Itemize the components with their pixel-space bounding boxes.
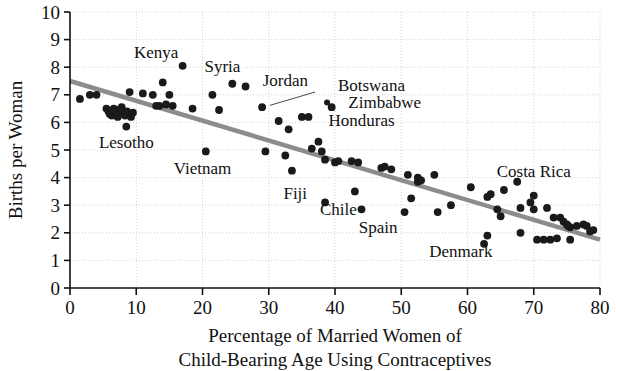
scatter-plot-svg: 01234567891001020304050607080Births per … bbox=[0, 0, 617, 371]
data-point bbox=[351, 188, 359, 196]
y-axis-tick-label: 2 bbox=[51, 222, 61, 243]
data-point bbox=[262, 147, 270, 155]
x-axis-title-line2: Child-Bearing Age Using Contraceptives bbox=[179, 349, 492, 370]
data-point bbox=[543, 204, 551, 212]
data-point bbox=[483, 232, 491, 240]
annotation-label: Spain bbox=[359, 218, 398, 237]
data-point bbox=[348, 157, 356, 165]
x-axis-tick-label: 40 bbox=[326, 297, 345, 318]
data-point bbox=[149, 91, 157, 99]
data-point bbox=[126, 88, 134, 96]
data-point bbox=[553, 234, 561, 242]
y-axis-tick-label: 8 bbox=[51, 57, 61, 78]
data-point bbox=[358, 205, 366, 213]
y-axis-tick-label: 6 bbox=[51, 112, 61, 133]
data-point bbox=[129, 109, 137, 117]
data-point bbox=[517, 204, 525, 212]
y-axis-tick-label: 1 bbox=[51, 250, 61, 271]
y-axis-tick-label: 3 bbox=[51, 195, 61, 216]
data-point bbox=[209, 91, 217, 99]
data-point bbox=[487, 190, 495, 198]
x-axis-tick-label: 80 bbox=[591, 297, 610, 318]
y-axis-title: Births per Woman bbox=[5, 80, 26, 219]
data-point bbox=[76, 95, 84, 103]
data-point bbox=[321, 156, 329, 164]
annotation-label: Fiji bbox=[283, 184, 307, 203]
data-point bbox=[122, 123, 130, 131]
annotation-bullet bbox=[324, 100, 330, 106]
data-point bbox=[305, 113, 313, 121]
data-point bbox=[288, 167, 296, 175]
data-point bbox=[430, 171, 438, 179]
data-point bbox=[308, 145, 316, 153]
data-point bbox=[156, 102, 164, 110]
data-point bbox=[530, 192, 538, 200]
data-point bbox=[404, 171, 412, 179]
annotation-label: Kenya bbox=[134, 43, 179, 62]
data-point bbox=[189, 105, 197, 113]
data-point bbox=[530, 205, 538, 213]
annotation-label: Honduras bbox=[328, 111, 394, 130]
data-point bbox=[258, 103, 266, 111]
annotation-label: Chile bbox=[320, 200, 357, 219]
y-axis-tick-label: 7 bbox=[51, 84, 61, 105]
data-point bbox=[165, 91, 173, 99]
data-point bbox=[334, 157, 342, 165]
y-axis-tick-label: 10 bbox=[41, 2, 60, 23]
data-point bbox=[527, 199, 535, 207]
data-point bbox=[179, 62, 187, 70]
data-point bbox=[467, 183, 475, 191]
data-point bbox=[566, 236, 574, 244]
annotation-label: Lesotho bbox=[99, 133, 154, 152]
x-axis-tick-label: 60 bbox=[458, 297, 477, 318]
y-axis-tick-label: 0 bbox=[51, 278, 61, 299]
data-point bbox=[497, 212, 505, 220]
x-axis-tick-label: 20 bbox=[193, 297, 212, 318]
data-point bbox=[242, 83, 250, 91]
x-axis-tick-label: 70 bbox=[524, 297, 543, 318]
data-point bbox=[139, 90, 147, 98]
data-point bbox=[517, 229, 525, 237]
y-axis-tick-label: 5 bbox=[51, 140, 61, 161]
data-point bbox=[447, 201, 455, 209]
data-point bbox=[275, 117, 283, 125]
data-point bbox=[401, 208, 409, 216]
x-axis-tick-label: 0 bbox=[65, 297, 75, 318]
data-point bbox=[566, 223, 574, 231]
annotation-label: Vietnam bbox=[174, 159, 232, 178]
y-axis-tick-label: 9 bbox=[51, 29, 61, 50]
annotation-label: Syria bbox=[204, 57, 240, 76]
data-point bbox=[407, 194, 415, 202]
chart-figure: 01234567891001020304050607080Births per … bbox=[0, 0, 617, 371]
data-point bbox=[169, 102, 177, 110]
y-axis-tick-label: 4 bbox=[51, 167, 61, 188]
annotation-label: Costa Rica bbox=[497, 162, 572, 181]
x-axis-tick-label: 30 bbox=[259, 297, 278, 318]
annotation-label: Jordan bbox=[263, 71, 309, 90]
data-point bbox=[493, 205, 501, 213]
data-point bbox=[215, 106, 223, 114]
data-point bbox=[573, 222, 581, 230]
data-point bbox=[500, 186, 508, 194]
data-point bbox=[159, 78, 167, 86]
data-point bbox=[318, 147, 326, 155]
data-point bbox=[546, 236, 554, 244]
data-point bbox=[162, 101, 170, 109]
data-point bbox=[434, 208, 442, 216]
x-axis-tick-label: 10 bbox=[127, 297, 146, 318]
data-point bbox=[387, 165, 395, 173]
data-point bbox=[228, 80, 236, 88]
annotation-label: Zimbabwe bbox=[348, 93, 421, 112]
data-point bbox=[315, 138, 323, 146]
data-point bbox=[281, 152, 289, 160]
data-point bbox=[285, 125, 293, 133]
data-point bbox=[93, 91, 101, 99]
data-point bbox=[417, 176, 425, 184]
x-axis-tick-label: 50 bbox=[392, 297, 411, 318]
data-point bbox=[589, 226, 597, 234]
x-axis-title-line1: Percentage of Married Women of bbox=[208, 325, 462, 346]
data-point bbox=[354, 159, 362, 167]
annotation-label: Denmark bbox=[429, 242, 493, 261]
data-point bbox=[202, 147, 210, 155]
